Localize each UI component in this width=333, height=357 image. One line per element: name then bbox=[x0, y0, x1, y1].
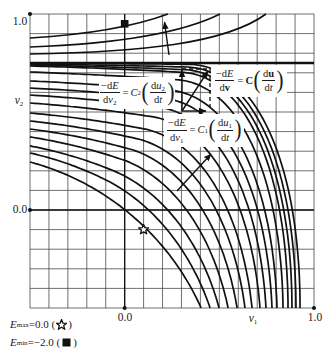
grid bbox=[28, 12, 316, 310]
x-axis-zero-label: 0.0 bbox=[118, 312, 132, 324]
rhs-denominator: dt bbox=[153, 93, 163, 106]
time-var: t bbox=[226, 132, 229, 143]
gradient-arrow bbox=[165, 22, 170, 55]
energy-contours bbox=[30, 14, 314, 308]
capacitance-matrix: C bbox=[245, 76, 253, 87]
resultant-arrow bbox=[182, 71, 208, 111]
lhs-numerator: −dE bbox=[167, 118, 187, 131]
y-axis-zero-label: 0.0 bbox=[13, 204, 27, 216]
axis-dot bbox=[28, 12, 32, 16]
legend-energy-max: Emax =0.0 ( ) bbox=[10, 319, 72, 330]
subscript: 1 bbox=[180, 137, 184, 145]
lhs-numerator: −dE bbox=[215, 69, 235, 82]
equals-sign: = bbox=[237, 76, 243, 87]
close-paren: ) bbox=[168, 80, 175, 104]
x-axis-sub: 1 bbox=[254, 318, 258, 326]
legend-value: =0.0 ( bbox=[29, 319, 55, 330]
energy-contour bbox=[30, 121, 245, 308]
y-axis-title: v2 bbox=[15, 95, 24, 107]
energy-contour bbox=[30, 129, 237, 308]
equation-neuron-2: −dE dv2 = C2 ( du2 dt ) bbox=[99, 77, 175, 109]
y-axis-max-label: 1.0 bbox=[13, 16, 27, 28]
lhs-fraction: −dE dv1 bbox=[167, 118, 187, 143]
rhs-numerator: du1 bbox=[217, 118, 233, 131]
energy-contour bbox=[30, 162, 201, 308]
star-outline-icon bbox=[139, 224, 149, 233]
close-paren: ) bbox=[235, 117, 242, 141]
energy-var: E bbox=[10, 337, 17, 348]
energy-var: E bbox=[179, 117, 185, 128]
lhs-fraction: −dE dv2 bbox=[100, 81, 120, 106]
output-vector: v bbox=[225, 82, 230, 93]
axis-dot bbox=[28, 208, 32, 212]
filled-square-icon bbox=[121, 20, 129, 28]
text: −d bbox=[216, 68, 227, 79]
energy-var: E bbox=[10, 319, 17, 330]
legend-close: ) bbox=[68, 319, 72, 330]
lhs-numerator: −dE bbox=[100, 81, 120, 94]
capacitance-var: C bbox=[198, 125, 205, 136]
open-paren: ( bbox=[209, 117, 216, 141]
energy-contour-diagram bbox=[0, 0, 333, 357]
lhs-denominator: dv bbox=[218, 81, 231, 94]
close-paren: ) bbox=[277, 68, 284, 92]
energy-var: E bbox=[112, 80, 118, 91]
text: −d bbox=[168, 117, 179, 128]
rhs-denominator: dt bbox=[263, 81, 273, 94]
text: −d bbox=[101, 80, 112, 91]
legend-value: =−2.0 ( bbox=[28, 337, 61, 348]
legend-energy-min: Emin =−2.0 ( ) bbox=[10, 337, 77, 348]
rhs-fraction: du2 dt bbox=[150, 81, 166, 106]
axis-dot bbox=[123, 306, 127, 310]
time-var: t bbox=[270, 82, 273, 93]
lhs-denominator: dv1 bbox=[169, 131, 184, 144]
subscript: 1 bbox=[229, 122, 233, 130]
y-axis-sub: 2 bbox=[20, 100, 24, 108]
rhs-fraction: du dt bbox=[262, 69, 275, 94]
energy-contour bbox=[30, 14, 168, 38]
legend-close: ) bbox=[73, 337, 77, 348]
equals-sign: = bbox=[123, 88, 129, 99]
filled-square-icon bbox=[61, 337, 72, 348]
lhs-fraction: −dE dv bbox=[215, 69, 235, 94]
rhs-numerator: du bbox=[262, 69, 275, 82]
lhs-denominator: dv2 bbox=[102, 93, 117, 106]
open-paren: ( bbox=[142, 80, 149, 104]
equation-vector: −dE dv = C ( du dt ) bbox=[211, 65, 287, 97]
x-axis-max-label: 1.0 bbox=[308, 312, 322, 324]
input-vector: u bbox=[268, 68, 274, 79]
rhs-denominator: dt bbox=[220, 131, 230, 144]
rhs-fraction: du1 dt bbox=[217, 118, 233, 143]
open-paren: ( bbox=[254, 68, 261, 92]
x-axis-title: v1 bbox=[249, 313, 258, 325]
equation-neuron-1: −dE dv1 = C1 ( du1 dt ) bbox=[164, 114, 244, 147]
time-var: t bbox=[159, 94, 162, 105]
star-outline-icon bbox=[56, 319, 67, 330]
capacitance-var: C bbox=[131, 88, 138, 99]
equals-sign: = bbox=[190, 125, 196, 136]
subscript: 2 bbox=[113, 99, 117, 107]
axis-dot bbox=[312, 306, 316, 310]
rhs-numerator: du2 bbox=[150, 81, 166, 94]
energy-var: E bbox=[227, 68, 233, 79]
subscript: 2 bbox=[162, 85, 166, 93]
